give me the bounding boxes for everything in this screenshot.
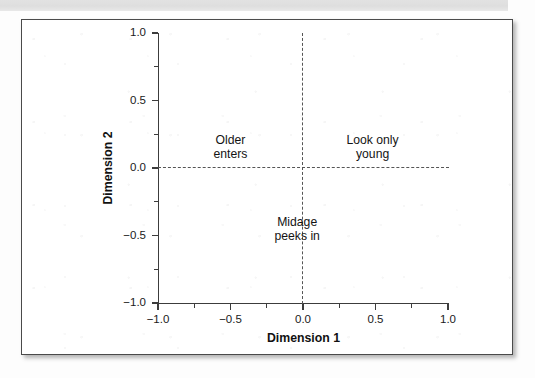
y-tick-major	[152, 235, 158, 236]
y-tick-major	[152, 32, 158, 33]
horizontal-zero-line	[158, 167, 449, 168]
y-tick-label: 1.0	[104, 27, 146, 39]
x-tick-major	[302, 304, 303, 310]
annotation-line-1: Older	[171, 133, 291, 147]
y-tick-label: −1.0	[104, 297, 146, 309]
annotation-midage-peeks-in: Midagepeeks in	[237, 215, 357, 244]
vertical-zero-line	[302, 33, 303, 304]
x-tick-label: 1.0	[420, 314, 476, 326]
y-tick-minor	[154, 66, 158, 67]
x-axis-label: Dimension 1	[158, 331, 449, 345]
annotation-line-2: peeks in	[237, 229, 357, 243]
y-tick-label: −0.5	[104, 230, 146, 242]
y-axis-label: Dimension 2	[101, 131, 115, 204]
annotation-older-enters: Olderenters	[171, 133, 291, 162]
scan-gray-band	[0, 0, 508, 11]
annotation-line-1: Look only	[313, 133, 433, 147]
x-tick-minor	[194, 304, 195, 308]
x-tick-major	[375, 304, 376, 310]
y-tick-major	[152, 100, 158, 101]
annotation-line-2: young	[313, 147, 433, 161]
y-tick-minor	[154, 134, 158, 135]
x-tick-minor	[411, 304, 412, 308]
x-tick-major	[157, 304, 158, 310]
y-tick-minor	[154, 201, 158, 202]
x-tick-label: 0.5	[348, 314, 404, 326]
y-axis-line	[158, 33, 159, 304]
annotation-line-2: enters	[171, 147, 291, 161]
x-tick-label: 0.0	[275, 314, 331, 326]
annotation-line-1: Midage	[237, 215, 357, 229]
x-tick-minor	[339, 304, 340, 308]
x-tick-major	[447, 304, 448, 310]
y-tick-minor	[154, 269, 158, 270]
x-tick-label: −0.5	[203, 314, 259, 326]
annotation-look-only-young: Look onlyyoung	[313, 133, 433, 162]
x-tick-major	[230, 304, 231, 310]
x-tick-label: −1.0	[130, 314, 186, 326]
y-tick-label: 0.5	[104, 95, 146, 107]
x-tick-minor	[266, 304, 267, 308]
